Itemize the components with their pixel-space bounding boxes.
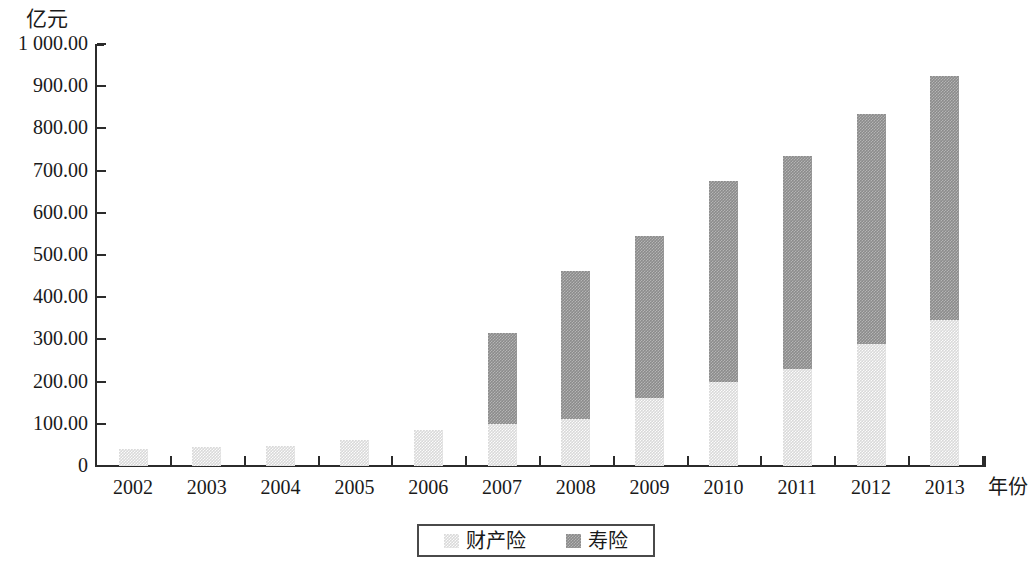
y-axis-label-wrap: 500.00	[0, 244, 88, 264]
y-axis-tick	[97, 381, 106, 383]
x-axis-right-cap	[984, 456, 986, 467]
y-axis-tick-label: 300.00	[2, 328, 88, 348]
y-axis-tick	[97, 127, 106, 129]
y-axis-tick	[97, 170, 106, 172]
bar-segment-property-2013[interactable]	[930, 320, 959, 466]
legend-swatch-life	[566, 534, 581, 548]
y-axis-tick-label: 0	[2, 455, 88, 475]
y-axis-tick-label: 500.00	[2, 244, 88, 264]
y-axis-label-wrap: 300.00	[0, 328, 88, 348]
bar-2009[interactable]	[635, 236, 664, 466]
y-axis-label-wrap: 200.00	[0, 371, 88, 391]
bar-segment-life-2009[interactable]	[635, 236, 664, 398]
x-axis-tick-label: 2005	[319, 476, 389, 498]
bar-2011[interactable]	[783, 156, 812, 466]
bar-2008[interactable]	[561, 271, 590, 466]
bar-segment-life-2012[interactable]	[857, 114, 886, 344]
x-axis-tick	[539, 456, 541, 466]
y-axis-label-wrap: 600.00	[0, 202, 88, 222]
bar-segment-property-2004[interactable]	[266, 446, 295, 466]
y-axis-tick	[97, 254, 106, 256]
y-axis-tick-label: 200.00	[2, 371, 88, 391]
y-axis-tick	[97, 212, 106, 214]
bar-segment-property-2011[interactable]	[783, 369, 812, 466]
bar-segment-property-2008[interactable]	[561, 419, 590, 466]
x-axis-tick	[244, 456, 246, 466]
bar-2002[interactable]	[119, 449, 148, 466]
y-axis-tick	[97, 85, 106, 87]
y-axis-tick-label: 600.00	[2, 202, 88, 222]
y-axis-tick	[97, 465, 106, 467]
chart-legend: 财产险 寿险	[417, 524, 655, 557]
x-axis-tick-label: 2006	[393, 476, 463, 498]
y-axis-tick-label: 400.00	[2, 286, 88, 306]
x-axis-tick	[908, 456, 910, 466]
bar-2007[interactable]	[488, 333, 517, 466]
bar-segment-life-2008[interactable]	[561, 271, 590, 419]
x-axis-tick	[760, 456, 762, 466]
bar-segment-life-2007[interactable]	[488, 333, 517, 424]
x-axis-tick-label: 2003	[172, 476, 242, 498]
x-axis-tick-label: 2002	[98, 476, 168, 498]
y-axis-tick-label: 100.00	[2, 413, 88, 433]
legend-label-property: 财产险	[466, 531, 526, 551]
legend-swatch-property	[444, 534, 459, 548]
bar-segment-life-2011[interactable]	[783, 156, 812, 369]
y-axis-tick	[97, 423, 106, 425]
x-axis-tick-label: 2011	[762, 476, 832, 498]
x-axis-title: 年份	[988, 476, 1028, 498]
bar-2013[interactable]	[930, 76, 959, 466]
bar-segment-property-2003[interactable]	[192, 447, 221, 466]
bar-segment-life-2010[interactable]	[709, 181, 738, 381]
bar-segment-property-2012[interactable]	[857, 344, 886, 466]
y-axis-tick-label: 900.00	[2, 75, 88, 95]
y-axis-tick	[97, 338, 106, 340]
bar-segment-property-2002[interactable]	[119, 449, 148, 466]
legend-label-life: 寿险	[588, 531, 628, 551]
x-axis-tick-label: 2008	[541, 476, 611, 498]
x-axis-tick-label: 2004	[246, 476, 316, 498]
y-axis-tick	[97, 296, 106, 298]
x-axis-tick	[170, 456, 172, 466]
bar-2010[interactable]	[709, 181, 738, 466]
y-axis-label-wrap: 0	[0, 455, 88, 475]
y-axis-label-wrap: 400.00	[0, 286, 88, 306]
x-axis-tick	[982, 456, 984, 466]
y-axis-label-wrap: 1 000.00	[0, 33, 88, 53]
x-axis-tick-label: 2007	[467, 476, 537, 498]
bar-2003[interactable]	[192, 447, 221, 466]
y-axis-tick-label: 800.00	[2, 117, 88, 137]
bar-segment-life-2013[interactable]	[930, 76, 959, 321]
bar-segment-property-2009[interactable]	[635, 398, 664, 466]
legend-item-property[interactable]: 财产险	[444, 531, 526, 551]
bar-segment-property-2007[interactable]	[488, 424, 517, 466]
bar-segment-property-2005[interactable]	[340, 440, 369, 466]
bar-segment-property-2006[interactable]	[414, 430, 443, 466]
x-axis-tick-label: 2013	[910, 476, 980, 498]
x-axis-tick	[687, 456, 689, 466]
bar-2012[interactable]	[857, 114, 886, 466]
y-axis-tick-label: 1 000.00	[2, 33, 88, 53]
bar-2006[interactable]	[414, 430, 443, 466]
bar-2005[interactable]	[340, 440, 369, 466]
x-axis-tick-label: 2012	[836, 476, 906, 498]
x-axis-tick	[834, 456, 836, 466]
bar-2004[interactable]	[266, 446, 295, 466]
x-axis-tick	[318, 456, 320, 466]
y-axis-unit-label: 亿元	[26, 2, 68, 32]
x-axis-tick	[391, 456, 393, 466]
x-axis-tick-label: 2009	[615, 476, 685, 498]
x-axis-tick-label: 2010	[688, 476, 758, 498]
y-axis-label-wrap: 100.00	[0, 413, 88, 433]
y-axis-label-wrap: 700.00	[0, 160, 88, 180]
y-axis-label-wrap: 900.00	[0, 75, 88, 95]
x-axis-tick	[465, 456, 467, 466]
y-axis-tick	[97, 43, 106, 45]
y-axis-tick-label: 700.00	[2, 160, 88, 180]
legend-item-life[interactable]: 寿险	[566, 531, 628, 551]
bar-segment-property-2010[interactable]	[709, 382, 738, 466]
y-axis-label-wrap: 800.00	[0, 117, 88, 137]
x-axis-tick	[613, 456, 615, 466]
